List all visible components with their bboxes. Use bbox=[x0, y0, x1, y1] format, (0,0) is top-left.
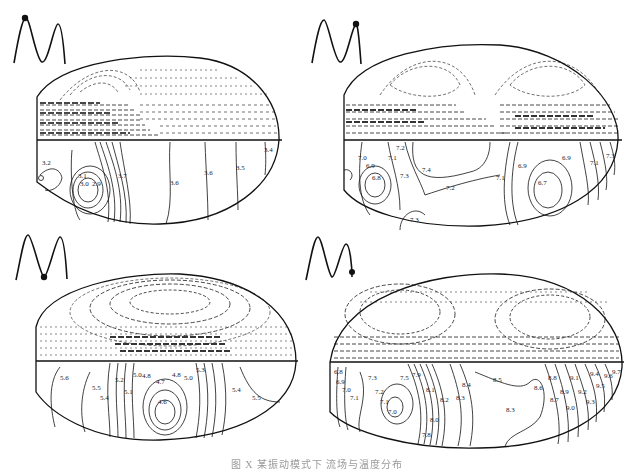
phase-waveform-icon bbox=[306, 237, 355, 280]
phase-waveform-icon bbox=[14, 15, 65, 64]
contour-label: 5.0 bbox=[133, 371, 142, 379]
panel-top-right: 7.0 6.9 6.8 7.1 7.2 7.3 7.4 7.2 7.3 7.1 … bbox=[300, 0, 634, 232]
contour-label: 8.2 bbox=[440, 396, 449, 404]
contour-label: 3.7 bbox=[118, 172, 127, 180]
contour-label: 3.0 bbox=[80, 180, 89, 188]
contour-label: 8.4 bbox=[462, 381, 471, 389]
flow-temperature-plot: 5.6 5.5 5.4 5.2 5.1 5.0 4.8 4.7 4.6 4.8 … bbox=[0, 232, 317, 454]
contour-label: 9.2 bbox=[578, 388, 587, 396]
contour-label: 7.1 bbox=[590, 159, 599, 167]
contour-label: 5.6 bbox=[60, 374, 69, 382]
contour-label: 7.3 bbox=[400, 172, 409, 180]
phase-marker-dot bbox=[349, 269, 355, 275]
contour-label: 3.6 bbox=[170, 179, 179, 187]
contour-label: 4.8 bbox=[172, 371, 181, 379]
contour-label: 7.0 bbox=[388, 408, 397, 416]
contour-label: 5.4 bbox=[232, 386, 241, 394]
contour-label: 7.3 bbox=[410, 216, 419, 224]
panel-bottom-left: 5.6 5.5 5.4 5.2 5.1 5.0 4.8 4.7 4.6 4.8 … bbox=[0, 232, 317, 454]
contour-label: 5.4 bbox=[100, 394, 109, 402]
contour-label: 8.9 bbox=[560, 388, 569, 396]
contour-label: 6.9 bbox=[518, 162, 527, 170]
contour-label: 9.0 bbox=[566, 404, 575, 412]
contour-label: 7.0 bbox=[342, 386, 351, 394]
contour-label: 7.2 bbox=[446, 184, 455, 192]
contour-label: 5.5 bbox=[92, 384, 101, 392]
contour-label: 2.9 bbox=[92, 180, 101, 188]
contour-label: 8.1 bbox=[426, 386, 435, 394]
contour-label: 3.1 bbox=[78, 172, 87, 180]
contour-label: 5.3 bbox=[196, 366, 205, 374]
contour-label: 6.7 bbox=[538, 179, 547, 187]
contour-label: 9.7 bbox=[612, 368, 621, 376]
contour-label: 7.1 bbox=[380, 398, 389, 406]
contour-label: 8.3 bbox=[506, 406, 515, 414]
contour-label: 7.4 bbox=[422, 166, 431, 174]
flow-temperature-plot: 6.8 6.9 7.0 7.1 7.3 7.2 7.1 7.0 7.5 7.9 … bbox=[300, 232, 634, 454]
flow-temperature-plot: 7.0 6.9 6.8 7.1 7.2 7.3 7.4 7.2 7.3 7.1 … bbox=[300, 0, 634, 232]
contour-label: 4.7 bbox=[156, 378, 165, 386]
contour-label: 9.1 bbox=[570, 374, 579, 382]
contour-label: 8.0 bbox=[430, 416, 439, 424]
contour-label: 3.4 bbox=[264, 146, 273, 154]
contour-label: 5.5 bbox=[252, 394, 261, 402]
contour-label: 8.7 bbox=[550, 396, 559, 404]
contour-label: 6.9 bbox=[366, 162, 375, 170]
panel-bottom-right: 6.8 6.9 7.0 7.1 7.3 7.2 7.1 7.0 7.5 7.9 … bbox=[300, 232, 634, 454]
contour-label: 7.0 bbox=[358, 154, 367, 162]
contour-label: 7.1 bbox=[350, 394, 359, 402]
panel-top-left: 3.2 3.1 3.0 2.9 3.7 3.6 3.6 3.5 3.4 bbox=[0, 0, 317, 232]
contour-label: 8.8 bbox=[548, 374, 557, 382]
contour-label: 9.5 bbox=[596, 382, 605, 390]
contour-label: 9.3 bbox=[586, 398, 595, 406]
flow-temperature-plot: 3.2 3.1 3.0 2.9 3.7 3.6 3.6 3.5 3.4 bbox=[0, 0, 317, 232]
phase-waveform-icon bbox=[312, 20, 361, 64]
phase-waveform-icon bbox=[16, 235, 67, 280]
contour-label: 7.1 bbox=[388, 154, 397, 162]
contour-label: 6.9 bbox=[562, 154, 571, 162]
phase-marker-dot bbox=[353, 21, 359, 27]
contour-label: 7.8 bbox=[422, 431, 431, 439]
contour-label: 5.0 bbox=[184, 374, 193, 382]
contour-label: 7.3 bbox=[368, 374, 377, 382]
contour-label: 6.8 bbox=[372, 174, 381, 182]
contour-label: 4.8 bbox=[142, 372, 151, 380]
contour-label: 7.1 bbox=[496, 174, 505, 182]
contour-label: 6.9 bbox=[336, 378, 345, 386]
contour-label: 8.6 bbox=[534, 384, 543, 392]
contour-label: 3.2 bbox=[42, 159, 51, 167]
contour-label: 4.6 bbox=[158, 398, 167, 406]
contour-label: 3.5 bbox=[236, 164, 245, 172]
contour-label: 7.9 bbox=[412, 371, 421, 379]
contour-label: 5.1 bbox=[124, 388, 133, 396]
contour-label: 7.2 bbox=[396, 144, 405, 152]
contour-label: 7.3 bbox=[606, 152, 615, 160]
contour-label: 8.5 bbox=[493, 376, 502, 384]
contour-label: 8.3 bbox=[456, 394, 465, 402]
phase-marker-dot bbox=[22, 15, 28, 21]
figure-caption-text: 图 X 某振动模式下 流场与温度分布 bbox=[231, 459, 404, 470]
contour-label: 9.4 bbox=[590, 370, 599, 378]
phase-marker-dot bbox=[41, 274, 47, 280]
contour-label: 7.5 bbox=[400, 374, 409, 382]
contour-label: 5.2 bbox=[115, 376, 124, 384]
figure-caption: 图 X 某振动模式下 流场与温度分布 bbox=[0, 456, 634, 470]
contour-label: 6.8 bbox=[334, 368, 343, 376]
contour-label: 7.2 bbox=[375, 388, 384, 396]
contour-label: 3.6 bbox=[204, 169, 213, 177]
